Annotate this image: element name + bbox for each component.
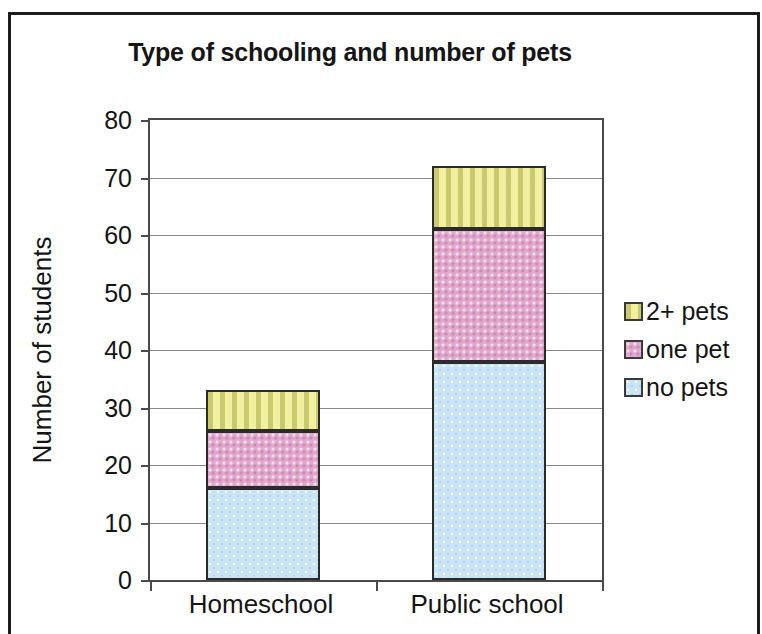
x-axis-label-public-school: Public school xyxy=(374,589,600,620)
chart-title: Type of schooling and number of pets xyxy=(0,38,700,67)
y-tick-label: 10 xyxy=(72,508,132,537)
x-tick-mark xyxy=(602,580,604,591)
y-tick-label: 60 xyxy=(72,221,132,250)
chart-image: Type of schooling and number of pets Num… xyxy=(0,0,762,634)
bar-segment-one-pet xyxy=(206,431,320,489)
bar-group xyxy=(206,120,320,580)
y-tick-mark xyxy=(141,293,150,295)
legend-item: one pet xyxy=(624,330,754,368)
bar-segment-no-pets xyxy=(206,488,320,580)
legend-swatch-2pets xyxy=(624,302,643,321)
y-tick-mark xyxy=(141,580,150,582)
bar-segment-2-pets xyxy=(206,390,320,430)
y-tick-label: 40 xyxy=(72,336,132,365)
y-tick-label: 80 xyxy=(72,106,132,135)
y-axis-title: Number of students xyxy=(27,185,58,515)
legend-label: no pets xyxy=(646,373,728,402)
bar-segment-one-pet xyxy=(432,229,546,361)
x-axis-labels: HomeschoolPublic school xyxy=(148,589,600,629)
legend-swatch-nopets xyxy=(624,378,643,397)
y-tick-mark xyxy=(141,523,150,525)
y-tick-mark xyxy=(141,350,150,352)
chart-legend: 2+ petsone petno pets xyxy=(624,292,754,406)
y-tick-label: 0 xyxy=(72,566,132,595)
bar-group xyxy=(432,120,546,580)
legend-label: 2+ pets xyxy=(646,297,729,326)
y-tick-mark xyxy=(141,178,150,180)
y-tick-label: 20 xyxy=(72,451,132,480)
legend-item: 2+ pets xyxy=(624,292,754,330)
y-tick-mark xyxy=(141,408,150,410)
y-tick-label: 30 xyxy=(72,393,132,422)
bar-segment-2-pets xyxy=(432,166,546,229)
y-tick-label: 50 xyxy=(72,278,132,307)
y-tick-mark xyxy=(141,465,150,467)
legend-swatch-onepet xyxy=(624,340,643,359)
x-axis-label-homeschool: Homeschool xyxy=(148,589,374,620)
legend-label: one pet xyxy=(646,335,729,364)
legend-item: no pets xyxy=(624,368,754,406)
bar-segment-no-pets xyxy=(432,362,546,581)
y-tick-mark xyxy=(141,235,150,237)
plot-area: Number of students 80706050403020100 xyxy=(148,118,604,582)
y-tick-label: 70 xyxy=(72,163,132,192)
y-tick-mark xyxy=(141,120,150,122)
